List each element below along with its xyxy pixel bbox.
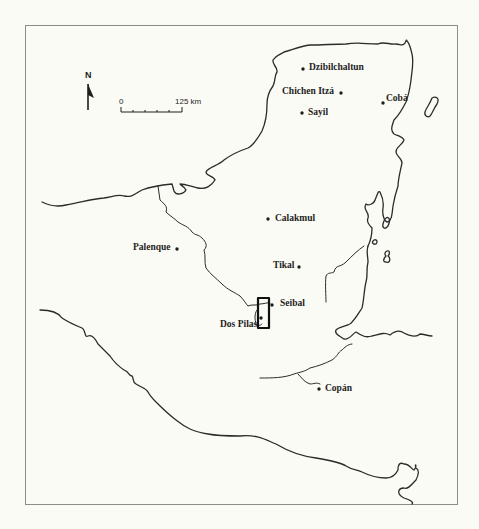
site-dot-copan <box>317 387 320 390</box>
scale-start-label: 0 <box>119 98 123 106</box>
site-label-chichen-itza: Chichen Itzá <box>282 87 334 97</box>
cay-2 <box>373 240 378 244</box>
site-markers <box>175 67 384 390</box>
scale-end-label: 125 km <box>175 98 201 106</box>
site-label-tikal: Tikal <box>273 261 294 271</box>
site-label-coba: Cobá <box>386 94 408 104</box>
site-label-palenque: Palenque <box>133 243 170 253</box>
site-dot-dos-pilas <box>259 316 262 319</box>
site-dot-palenque <box>175 247 178 250</box>
site-label-copan: Copán <box>325 384 352 394</box>
site-dot-sayil <box>300 111 303 114</box>
cay-3 <box>384 251 390 263</box>
site-label-dos-pilas: Dos Pilas <box>220 320 257 330</box>
site-dot-coba <box>381 101 384 104</box>
copan-river <box>298 374 320 384</box>
site-label-sayil: Sayil <box>308 108 328 118</box>
site-dot-chichen-itza <box>339 91 342 94</box>
site-dot-dzibilchaltun <box>301 67 304 70</box>
map-canvas <box>0 0 479 529</box>
site-dot-seibal <box>270 303 273 306</box>
site-dot-tikal <box>297 265 300 268</box>
site-dot-calakmul <box>266 217 269 220</box>
usumacinta-river <box>158 186 270 306</box>
north-arrow-icon <box>88 84 94 110</box>
site-label-seibal: Seibal <box>280 299 305 309</box>
site-label-calakmul: Calakmul <box>275 214 315 224</box>
pacific-coastline <box>40 310 418 504</box>
scale-bar <box>121 107 182 112</box>
belize-river <box>326 246 364 302</box>
motagua-river <box>260 344 352 378</box>
north-label: N <box>85 71 92 80</box>
site-label-dzibilchaltun: Dzibilchaltun <box>309 63 364 73</box>
cozumel-island <box>425 97 438 117</box>
